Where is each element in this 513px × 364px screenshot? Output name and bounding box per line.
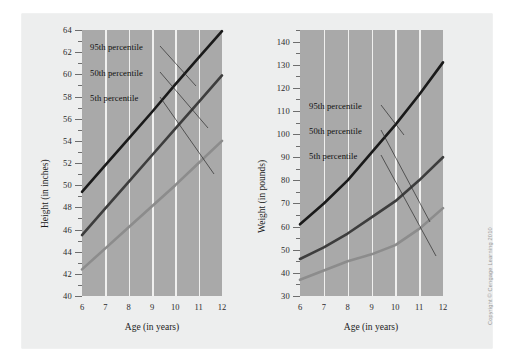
y-axis-tick-label: 50 [264, 245, 290, 255]
y-axis-tick-label: 40 [264, 268, 290, 278]
gridline [348, 30, 350, 296]
x-axis-tick-label: 11 [407, 302, 431, 312]
y-axis-tick-label: 60 [264, 222, 290, 232]
gridline [324, 30, 326, 296]
y-axis-tick-label: 90 [264, 152, 290, 162]
weight-chart: Age (in years) Weight (in pounds) 304050… [0, 0, 513, 364]
x-axis-tick-label: 12 [431, 302, 455, 312]
y-axis-tick-label: 30 [264, 291, 290, 301]
series-label-5th: 5th percentile [309, 151, 357, 161]
series-label-50th: 50th percentile [309, 126, 362, 136]
y-axis-minor-tick [296, 261, 300, 262]
y-axis-minor-tick [296, 284, 300, 285]
y-axis-minor-tick [296, 76, 300, 77]
y-axis-minor-tick [296, 215, 300, 216]
y-axis-tick [293, 296, 300, 297]
y-axis-minor-tick [296, 53, 300, 54]
x-axis-tick-label: 8 [336, 302, 360, 312]
y-axis-tick-label: 110 [264, 106, 290, 116]
y-axis-tick-label: 80 [264, 175, 290, 185]
y-axis-minor-tick [296, 123, 300, 124]
y-axis-tick-label: 120 [264, 83, 290, 93]
y-axis-tick-label: 70 [264, 198, 290, 208]
y-axis-minor-tick [296, 192, 300, 193]
x-axis-tick-label: 7 [312, 302, 336, 312]
y-axis-tick [293, 65, 300, 66]
y-axis-tick [293, 180, 300, 181]
x-axis-tick-label: 9 [360, 302, 384, 312]
y-axis-tick-label: 130 [264, 60, 290, 70]
y-axis-tick-label: 100 [264, 129, 290, 139]
y-axis-tick [293, 273, 300, 274]
y-axis-tick [293, 88, 300, 89]
series-label-95th: 95th percentile [309, 101, 362, 111]
y-axis-minor-tick [296, 169, 300, 170]
y-axis-tick [293, 227, 300, 228]
y-axis-minor-tick [296, 146, 300, 147]
y-axis-tick [293, 250, 300, 251]
y-axis-tick [293, 134, 300, 135]
gridline [419, 30, 421, 296]
weight-x-axis-title: Age (in years) [326, 322, 416, 332]
y-axis-tick [293, 157, 300, 158]
x-axis-tick-label: 10 [383, 302, 407, 312]
y-axis-minor-tick [296, 30, 300, 31]
y-axis-minor-tick [296, 238, 300, 239]
y-axis-minor-tick [296, 99, 300, 100]
weight-plot-area [300, 30, 443, 296]
x-axis-tick-label: 6 [288, 302, 312, 312]
figure-page: Age (in years) Height (in inches) 404244… [0, 0, 513, 364]
copyright-credit: Copyright © Cengage Learning 2010 [487, 227, 493, 325]
y-axis-tick [293, 203, 300, 204]
gridline [372, 30, 374, 296]
gridline [395, 30, 397, 296]
y-axis-tick [293, 42, 300, 43]
y-axis-tick [293, 111, 300, 112]
y-axis-tick-label: 140 [264, 37, 290, 47]
